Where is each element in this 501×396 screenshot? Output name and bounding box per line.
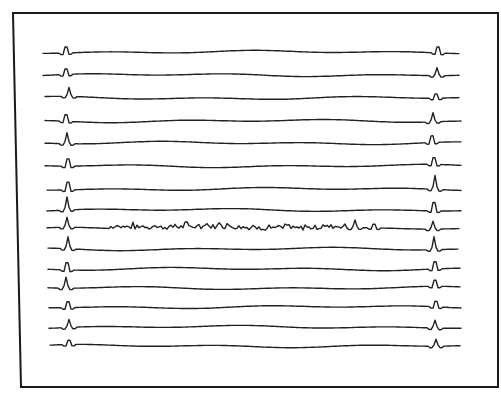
trace-9	[47, 217, 459, 230]
waveform-figure	[0, 0, 501, 396]
trace-group	[43, 47, 461, 348]
trace-12	[48, 277, 460, 290]
trace-14	[49, 319, 461, 329]
trace-2	[43, 68, 459, 78]
trace-6	[45, 158, 461, 168]
trace-10	[48, 237, 458, 252]
trace-11	[48, 262, 460, 272]
trace-7	[47, 175, 461, 191]
trace-5	[45, 133, 461, 146]
trace-13	[49, 301, 461, 309]
trace-8	[47, 197, 461, 213]
trace-15	[50, 339, 460, 348]
trace-1	[43, 47, 459, 55]
trace-4	[45, 113, 461, 124]
trace-3	[45, 87, 459, 99]
figure-frame	[13, 13, 498, 387]
